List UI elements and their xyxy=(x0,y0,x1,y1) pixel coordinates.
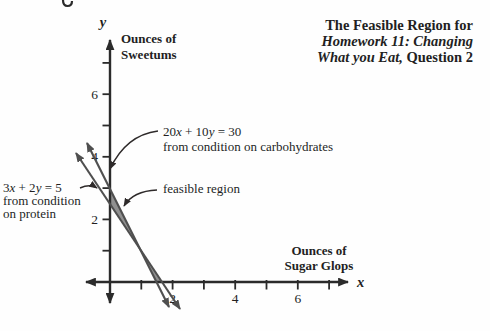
y-tick-label-6: 6 xyxy=(91,87,98,102)
title-line-3: What you Eat, Question 2 xyxy=(317,49,473,65)
protein-condition-text-line-2: on protein xyxy=(3,206,57,221)
x-tick-label-6: 6 xyxy=(294,291,301,306)
plot-canvas: The Feasible Region for Homework 11: Cha… xyxy=(0,0,490,331)
carb-equation: 20x + 10y = 30 xyxy=(163,124,241,139)
y-tick-label-2: 2 xyxy=(91,212,98,227)
title-line-2: Homework 11: Changing xyxy=(321,33,473,49)
title-block: The Feasible Region for Homework 11: Cha… xyxy=(317,17,473,65)
y-axis-variable-label: y xyxy=(98,14,107,30)
x-tick-label-4: 4 xyxy=(232,291,239,306)
x-axis-variable-label: x xyxy=(356,274,364,290)
carb-condition-text: from condition on carbohydrates xyxy=(163,139,333,154)
y-axis-title-line-1: Ounces of xyxy=(121,31,177,46)
x-axis-title-line-2: Sugar Glops xyxy=(285,258,354,273)
feasible-region-label: feasible region xyxy=(163,181,240,196)
feasible-region-figure: The Feasible Region for Homework 11: Cha… xyxy=(0,0,490,331)
y-axis-title-line-2: Sweetums xyxy=(121,47,177,62)
title-line-1: The Feasible Region for xyxy=(325,17,473,33)
x-axis-title-line-1: Ounces of xyxy=(291,243,347,258)
